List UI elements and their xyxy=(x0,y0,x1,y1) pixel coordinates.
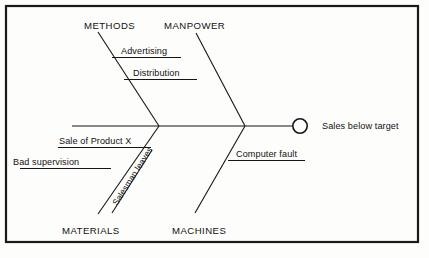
fishbone-canvas: METHODS MANPOWER MATERIALS MACHINES Adve… xyxy=(0,0,429,258)
category-label-methods: METHODS xyxy=(84,20,135,31)
cause-label-computer-fault: Computer fault xyxy=(236,149,297,159)
effect-node-circle xyxy=(293,119,307,133)
category-label-manpower: MANPOWER xyxy=(164,20,225,31)
cause-label-advertising: Advertising xyxy=(121,46,167,56)
cause-label-bad-supervision: Bad supervision xyxy=(13,157,79,167)
category-label-materials: MATERIALS xyxy=(62,225,120,236)
fishbone-diagram: METHODS MANPOWER MATERIALS MACHINES Adve… xyxy=(0,0,429,258)
cause-label-salesman-leaves: Salesman leaves xyxy=(110,145,154,207)
bone-manpower xyxy=(196,33,245,126)
bone-machines xyxy=(195,126,245,213)
category-label-machines: MACHINES xyxy=(172,225,226,236)
effect-label: Sales below target xyxy=(322,121,399,131)
cause-label-distribution: Distribution xyxy=(133,68,180,78)
cause-label-sale-of-product-x: Sale of Product X xyxy=(59,136,131,146)
